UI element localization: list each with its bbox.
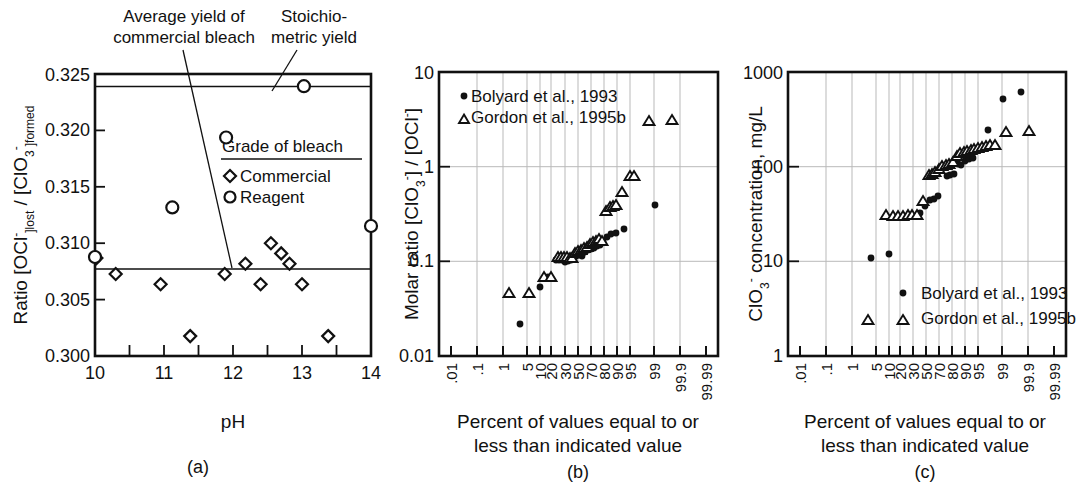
- data-point: [255, 278, 267, 290]
- stoich-yield-note-line1: Stoichio-: [281, 7, 347, 26]
- panel-a-xticks: 10 11 12 13 14: [85, 345, 381, 383]
- panel-b-xtick-14: 99.99: [698, 363, 715, 401]
- data-point: [296, 278, 308, 290]
- panel-b-xtick-13: 99.9: [672, 363, 689, 392]
- data-point: [322, 330, 334, 342]
- panel-c-legend-item-gordon: Gordon et al., 1995b: [921, 309, 1076, 328]
- legend-commercial-diamond-icon: [224, 170, 236, 182]
- avg-yield-note-line2: commercial bleach: [113, 28, 255, 47]
- data-point: [265, 237, 277, 249]
- panel-b-xtick-11: 95: [622, 363, 639, 380]
- legend-gordon-triangle-icon: [459, 115, 469, 124]
- panel-c-xtick-1: .1: [818, 363, 835, 376]
- panel-c-ytick-3: 1000: [743, 63, 783, 83]
- data-point: [918, 196, 929, 205]
- panel-c-xlabel-line2: less than indicated value: [821, 435, 1029, 456]
- data-point: [155, 278, 167, 290]
- panel-c-xtick-0: .01: [792, 363, 809, 384]
- panel-c-ylabel: ClO3- concentration, mg/L: [744, 106, 772, 322]
- panel-a-xtick-4: 14: [361, 363, 381, 383]
- panel-b: Molar ratio [ClO3-] / [OCl-]: [399, 63, 718, 482]
- legend-gordon-triangle-icon: [898, 315, 909, 324]
- data-point: [935, 193, 942, 200]
- panel-c-xlabel-line1: Percent of values equal to or: [804, 411, 1047, 432]
- data-point: [886, 251, 893, 258]
- panel-a-legend-item-reagent: Reagent: [240, 188, 305, 207]
- panel-b-ytick-1: 0.1: [409, 251, 434, 271]
- data-point: [868, 255, 875, 262]
- panel-c-xtick-2: 1: [844, 363, 861, 371]
- legend-bolyard-dot-icon: [900, 290, 907, 297]
- data-point: [985, 127, 992, 134]
- data-point: [537, 284, 544, 291]
- panel-b-xlabel-line2: less than indicated value: [474, 435, 682, 456]
- stoich-yield-leader-line: [272, 50, 297, 91]
- data-point: [365, 220, 377, 232]
- panel-a-ylabel: Ratio [OCl-]lost / [ClO3-]formed: [9, 106, 37, 325]
- panel-c-xtick-12: 99: [994, 363, 1011, 380]
- panel-a-series-commercial: [90, 237, 334, 342]
- svg-text:ClO3- concentration, mg/L: ClO3- concentration, mg/L: [744, 106, 772, 322]
- panel-c-legend: Bolyard et al., 1993 Gordon et al., 1995…: [898, 284, 1077, 328]
- data-point: [184, 330, 196, 342]
- panel-a-ytick-3: 0.315: [45, 177, 90, 197]
- legend-bolyard-dot-icon: [461, 93, 468, 100]
- panel-c-ytick-1: 10: [763, 251, 783, 271]
- data-point: [166, 201, 178, 213]
- panel-a-xtick-2: 12: [223, 363, 243, 383]
- data-point: [644, 116, 655, 125]
- data-point: [613, 230, 620, 237]
- data-point: [275, 247, 287, 259]
- panel-a-ytick-4: 0.320: [45, 120, 90, 140]
- data-point: [1018, 89, 1025, 96]
- panel-a-ytick-2: 0.310: [45, 233, 90, 253]
- data-point: [504, 288, 515, 297]
- data-point: [951, 171, 958, 178]
- panel-c-xtick-13: 99.9: [1020, 363, 1037, 392]
- panel-a-xtick-0: 10: [85, 363, 105, 383]
- panel-c-xtick-14: 99.99: [1046, 363, 1063, 401]
- panel-c-legend-item-bolyard: Bolyard et al., 1993: [921, 284, 1067, 303]
- panel-c: ClO3- concentration, mg/L: [743, 63, 1076, 482]
- panel-a-ytick-1: 0.305: [45, 290, 90, 310]
- data-point: [89, 251, 101, 263]
- data-point: [298, 80, 310, 92]
- data-point: [1024, 126, 1035, 135]
- panel-b-legend-item-bolyard: Bolyard et al., 1993: [471, 87, 617, 106]
- data-point: [239, 258, 251, 270]
- panel-b-xtick-12: 99: [646, 363, 663, 380]
- panel-b-xtick-1: .1: [469, 363, 486, 376]
- panel-b-xticks: .01 .1 1 5 10 20 30 50 70 80 90 95 99 99…: [443, 346, 715, 401]
- avg-yield-note-line1: Average yield of: [123, 7, 245, 26]
- data-point: [517, 321, 524, 328]
- panel-c-xtick-11: 95: [970, 363, 987, 380]
- data-point: [524, 288, 535, 297]
- data-point: [1000, 96, 1007, 103]
- panel-c-xticks: .01 .1 1 5 10 20 30 50 70 80 90 95 99 99…: [792, 346, 1063, 401]
- panel-a-xtick-3: 13: [292, 363, 312, 383]
- panel-a-xtick-1: 11: [155, 363, 174, 383]
- panel-c-label: (c): [915, 462, 936, 482]
- panel-a-ytick-0: 0.300: [45, 346, 90, 366]
- panel-a-plot-frame: [95, 74, 371, 356]
- data-point: [220, 132, 232, 144]
- panel-b-series-bolyard: [517, 202, 659, 328]
- panel-b-xtick-0: .01: [443, 363, 460, 384]
- figure-svg: Average yield of commercial bleach Stoic…: [0, 0, 1087, 485]
- panel-a-ytick-5: 0.325: [45, 65, 90, 85]
- panel-a-xlabel: pH: [221, 411, 245, 432]
- legend-reagent-circle-icon: [225, 192, 236, 203]
- panel-c-ytick-2: 100: [753, 157, 783, 177]
- panel-a-legend: Grade of bleach Commercial Reagent: [221, 137, 362, 207]
- panel-b-legend: Bolyard et al., 1993 Gordon et al., 1995…: [459, 87, 626, 127]
- data-point: [546, 272, 557, 281]
- panel-b-ytick-0: 0.01: [399, 346, 434, 366]
- figure-root: Average yield of commercial bleach Stoic…: [0, 0, 1087, 485]
- panel-a: Average yield of commercial bleach Stoic…: [9, 7, 381, 477]
- panel-b-xtick-2: 1: [495, 363, 512, 371]
- panel-c-ytick-0: 1: [773, 346, 783, 366]
- data-point: [652, 202, 659, 209]
- svg-text:Molar ratio [ClO3-] / [OCl-]: Molar ratio [ClO3-] / [OCl-]: [400, 108, 428, 320]
- panel-a-legend-item-commercial: Commercial: [240, 167, 331, 186]
- data-point: [617, 187, 628, 196]
